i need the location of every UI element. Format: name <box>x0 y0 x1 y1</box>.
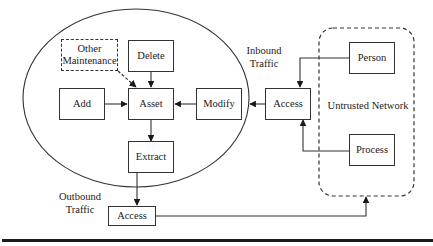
node-delete-label: Delete <box>137 50 164 62</box>
node-modify: Modify <box>196 88 242 120</box>
node-delete: Delete <box>128 40 174 72</box>
node-access-outbound-label: Access <box>117 210 147 222</box>
node-other-maintenance: Other Maintenance <box>61 39 118 71</box>
node-modify-label: Modify <box>203 98 235 110</box>
node-person-label: Person <box>358 52 387 64</box>
label-outbound-traffic: Outbound Traffic <box>56 190 104 216</box>
node-asset-label: Asset <box>139 98 162 110</box>
node-access-inbound: Access <box>265 88 311 120</box>
node-access-inbound-label: Access <box>273 98 303 110</box>
label-inbound-traffic: Inbound Traffic <box>242 44 286 70</box>
label-untrusted-network-text: Untrusted Network <box>328 100 409 111</box>
label-untrusted-network: Untrusted Network <box>326 99 410 112</box>
label-outbound-traffic-line1: Outbound <box>56 190 104 203</box>
edge-access-untrusted <box>156 197 366 216</box>
node-other-maintenance-line1: Other <box>78 43 102 55</box>
node-person: Person <box>349 42 395 74</box>
node-add: Add <box>59 88 105 120</box>
edge-person-access <box>300 58 349 87</box>
node-asset: Asset <box>128 88 174 120</box>
node-other-maintenance-line2: Maintenance <box>62 55 116 67</box>
edge-process-access <box>303 120 349 151</box>
bottom-rule <box>2 239 433 242</box>
node-extract: Extract <box>128 141 174 173</box>
node-process-label: Process <box>356 144 388 156</box>
node-add-label: Add <box>73 98 91 110</box>
node-process: Process <box>349 134 395 166</box>
label-inbound-traffic-line2: Traffic <box>242 57 286 70</box>
label-outbound-traffic-line2: Traffic <box>56 203 104 216</box>
label-inbound-traffic-line1: Inbound <box>242 44 286 57</box>
node-access-outbound: Access <box>108 206 156 226</box>
node-extract-label: Extract <box>136 151 166 163</box>
edge-other-maintenance-asset <box>118 71 136 87</box>
